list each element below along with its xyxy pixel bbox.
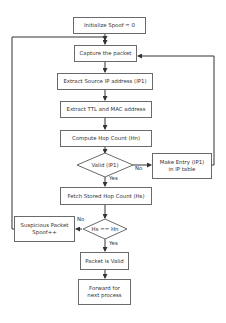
capture-packet-label: Capture the packet bbox=[80, 50, 132, 57]
valid-ip-decision: Valid (IP1) bbox=[77, 159, 133, 171]
compute-hop-count-node: Compute Hop Count (Hn) bbox=[60, 130, 152, 147]
valid-yes-label: Yes bbox=[109, 175, 118, 181]
valid-ip-decision-label: Valid (IP1) bbox=[91, 162, 118, 168]
forward-process-label-line2: next process bbox=[87, 292, 121, 299]
initialize-spoof-label: Initialize Spoof = 0 bbox=[84, 22, 135, 29]
extract-ttl-mac-node: Extract TTL and MAC address bbox=[60, 101, 152, 118]
capture-packet-node: Capture the packet bbox=[74, 45, 137, 62]
extract-ttl-mac-label: Extract TTL and MAC address bbox=[67, 106, 146, 113]
suspicious-packet-label-line2: Spoof++ bbox=[32, 229, 56, 236]
suspicious-packet-label-line1: Suspicious Packet bbox=[21, 222, 69, 229]
hop-compare-decision: Hs == Hn bbox=[83, 223, 127, 235]
extract-source-ip-node: Extract Source IP address (IP1) bbox=[57, 73, 153, 90]
extract-source-ip-label: Extract Source IP address (IP1) bbox=[63, 78, 146, 85]
fetch-stored-hop-label: Fetch Stored Hop Count (Hs) bbox=[68, 193, 145, 200]
valid-no-label: No bbox=[135, 165, 142, 171]
fetch-stored-hop-node: Fetch Stored Hop Count (Hs) bbox=[60, 187, 152, 205]
forward-process-node: Forward for next process bbox=[78, 279, 131, 305]
forward-process-label-line1: Forward for bbox=[89, 285, 120, 292]
initialize-spoof-node: Initialize Spoof = 0 bbox=[73, 17, 146, 34]
packet-valid-label: Packet is Valid bbox=[85, 258, 123, 265]
compute-hop-count-label: Compute Hop Count (Hn) bbox=[72, 135, 140, 142]
make-entry-node: Make Entry (IP1) in IP table bbox=[152, 153, 212, 179]
flowchart-canvas: Initialize Spoof = 0 Capture the packet … bbox=[0, 0, 226, 323]
packet-valid-node: Packet is Valid bbox=[80, 252, 129, 270]
suspicious-packet-node: Suspicious Packet Spoof++ bbox=[14, 216, 75, 242]
hop-compare-decision-label: Hs == Hn bbox=[92, 226, 119, 232]
compare-no-label: No bbox=[77, 216, 84, 222]
compare-yes-label: Yes bbox=[109, 240, 118, 246]
make-entry-label-line2: in IP table bbox=[169, 166, 196, 173]
make-entry-label-line1: Make Entry (IP1) bbox=[160, 159, 204, 166]
